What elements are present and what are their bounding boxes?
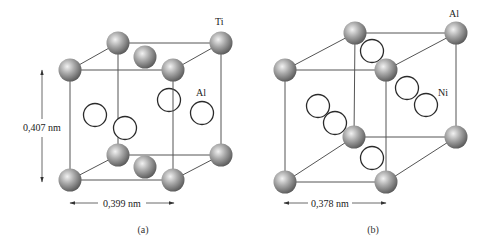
width-label-b: 0,378 nm [311, 198, 349, 209]
al-atom [158, 89, 181, 112]
ti-atom [210, 144, 233, 167]
ni-atom [396, 77, 419, 100]
width-label-a: 0,399 nm [103, 198, 141, 209]
al-atom [375, 171, 398, 194]
al-label-b: Al [449, 8, 459, 19]
figure-b-ni3al-unit-cell: Al Ni 0,378 nm (b) [274, 8, 468, 236]
height-label-a: 0,407 nm [23, 122, 61, 133]
ni-label-b: Ni [438, 87, 448, 98]
crystal-structures-diagram: Ti Al 0,407 nm 0,399 nm (a) [0, 0, 489, 249]
al-label: Al [196, 87, 206, 98]
width-dimension-b: 0,378 nm [284, 198, 386, 209]
ni-atom [324, 112, 347, 135]
ni-atom [361, 40, 384, 63]
ni-atom [361, 147, 384, 170]
al-atom [274, 171, 297, 194]
al-atom [84, 104, 107, 127]
ti-atom [162, 169, 185, 192]
ti-atom [162, 59, 185, 82]
caption-a: (a) [137, 224, 148, 236]
caption-b: (b) [367, 224, 379, 236]
al-atom [191, 102, 214, 125]
al-atom [445, 126, 468, 149]
ti-atom [59, 59, 82, 82]
ti-atom [59, 169, 82, 192]
ti-atom [107, 144, 130, 167]
ti-atom-face-center [134, 156, 157, 179]
ni-atoms-b [307, 40, 438, 135]
ti-label: Ti [215, 16, 224, 27]
ti-atom [210, 32, 233, 55]
al-atoms-a [84, 89, 214, 140]
width-dimension-a: 0,399 nm [70, 198, 174, 209]
al-atom [445, 22, 468, 45]
al-atom [343, 126, 366, 149]
ti-atom [107, 32, 130, 55]
figure-a-tial-unit-cell: Ti Al 0,407 nm 0,399 nm (a) [23, 16, 232, 236]
ti-atom-face-center [134, 46, 157, 69]
al-atom [114, 117, 137, 140]
ni-atom [415, 94, 438, 117]
al-atom [344, 22, 367, 45]
al-atom [274, 59, 297, 82]
height-dimension-a: 0,407 nm [23, 70, 61, 182]
al-atom [375, 59, 398, 82]
ni-atom [307, 95, 330, 118]
